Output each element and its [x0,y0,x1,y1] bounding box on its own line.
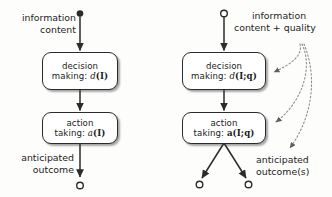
right-output-label: anticipated outcome(s) [256,154,332,179]
right-outcome-edge-1 [202,143,224,178]
right-decision-function-args: (I;q) [235,71,257,81]
left-decision-making-box[interactable]: decision making: d(I) [42,52,118,90]
right-action-taking-box[interactable]: action taking: a(I;q) [182,112,266,144]
right-action-prefix: taking: [194,128,227,138]
left-input-label-line-2: content [4,24,76,36]
right-input-label-line-1: information [234,10,332,22]
left-action-line-2: taking: a(I) [54,128,105,138]
left-output-label: anticipated outcome [2,152,74,177]
left-action-function-args: (I) [93,128,105,138]
left-decision-line-2: making: d(I) [52,71,108,81]
right-end-node-marker-2 [245,181,252,188]
right-outcome-edge-2 [224,143,246,178]
right-action-function-args: (I;q) [233,128,255,138]
right-panel-connectors [196,10,252,188]
right-input-label-line-2: content + quality [234,22,332,34]
left-decision-line-1: decision [62,61,98,71]
right-output-label-line-2: outcome(s) [256,166,332,178]
left-end-node-marker [77,182,84,189]
left-input-label-line-1: information [4,12,76,24]
right-action-line-2: taking: a(I;q) [194,128,255,138]
left-output-label-line-2: outcome [2,164,74,176]
left-action-prefix: taking: [54,128,87,138]
quality-to-decision-edge [274,44,300,72]
left-input-label: information content [4,12,76,37]
left-decision-function-args: (I) [96,71,108,81]
quality-to-outcome-edge [290,44,312,148]
right-input-label: information content + quality [234,10,332,35]
right-action-line-1: action [210,118,237,128]
right-output-label-line-1: anticipated [256,154,332,166]
right-start-node-marker [221,10,228,17]
left-action-taking-box[interactable]: action taking: a(I) [42,112,118,144]
right-decision-prefix: making: [191,71,229,81]
figure-canvas: decision making: d(I) action taking: a(I… [0,0,332,197]
left-start-node-marker [77,10,84,17]
right-decision-making-box[interactable]: decision making: d(I;q) [182,52,266,90]
right-decision-line-1: decision [206,61,242,71]
left-action-line-1: action [66,118,93,128]
right-decision-line-2: making: d(I;q) [191,71,257,81]
left-output-label-line-1: anticipated [2,152,74,164]
left-decision-prefix: making: [52,71,90,81]
quality-influence-edges [274,44,312,148]
left-panel-connectors [77,10,84,189]
quality-to-action-edge [276,44,306,122]
right-end-node-marker-1 [196,181,203,188]
